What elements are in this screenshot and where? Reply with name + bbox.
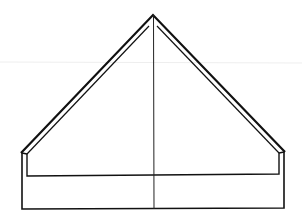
base-inner-ledge (27, 153, 279, 176)
diagram-canvas (0, 0, 302, 219)
faint-guide-line (0, 62, 302, 63)
house-profile-drawing (0, 0, 302, 219)
roof-inner-right-slope (157, 26, 279, 153)
base-outer-walls (22, 152, 284, 209)
roof-outer-outline (21, 15, 285, 153)
roof-inner-left-slope (27, 26, 149, 154)
center-axis-line (154, 15, 155, 209)
